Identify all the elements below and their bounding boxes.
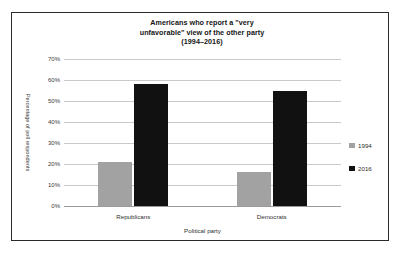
legend-swatch-1994-icon <box>349 143 355 149</box>
bar-democrats-1994 <box>237 172 271 206</box>
y-axis-tick-label: 40% <box>48 119 60 125</box>
bar-republicans-2016 <box>134 84 168 206</box>
y-axis-tick-label: 50% <box>48 98 60 104</box>
chart-title-line-2: unfavorable" view of the other party <box>72 28 332 38</box>
legend-item-2016[interactable]: 2016 <box>349 164 395 173</box>
legend-swatch-2016-icon <box>349 166 355 172</box>
chart-title-line-1: Americans who report a "very <box>72 18 332 28</box>
x-axis-tick-label: Democrats <box>257 213 287 220</box>
y-axis-title: Percentage of poll respondents <box>23 59 33 206</box>
chart-figure: Americans who report a "very unfavorable… <box>11 12 389 241</box>
gridline <box>64 206 341 207</box>
y-axis-tick-label: 0% <box>51 203 60 209</box>
y-axis-tick-label: 20% <box>48 161 60 167</box>
chart-title: Americans who report a "very unfavorable… <box>72 18 332 47</box>
legend-item-1994[interactable]: 1994 <box>349 141 395 150</box>
y-axis-tick-label: 60% <box>48 77 60 83</box>
legend-label-1994: 1994 <box>358 142 372 149</box>
x-axis-title: Political party <box>64 227 341 234</box>
plot-area: 0%10%20%30%40%50%60%70%RepublicansDemocr… <box>64 59 341 206</box>
bar-democrats-2016 <box>273 91 307 207</box>
x-axis-tick-label: Republicans <box>116 213 150 220</box>
legend-label-2016: 2016 <box>358 165 372 172</box>
chart-legend: 1994 2016 <box>349 141 395 187</box>
chart-title-line-3: (1994–2016) <box>72 37 332 47</box>
gridline <box>64 59 341 60</box>
gridline <box>64 80 341 81</box>
y-axis-tick-label: 30% <box>48 140 60 146</box>
y-axis-tick-label: 70% <box>48 56 60 62</box>
y-axis-tick-label: 10% <box>48 182 60 188</box>
bar-republicans-1994 <box>98 162 132 206</box>
